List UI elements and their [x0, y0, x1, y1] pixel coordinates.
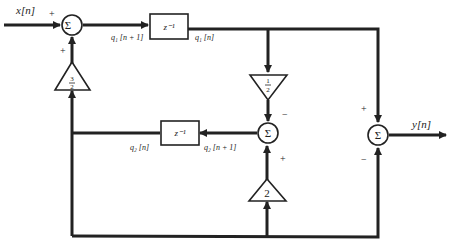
sign-top-input: + — [49, 8, 55, 19]
q1-label: q₁ [n] — [195, 33, 214, 42]
sigma-top: Σ — [65, 19, 71, 31]
input-label: x[n] — [15, 4, 35, 16]
q2-label: q₂ [n] — [130, 143, 149, 152]
sign-out-bottom: − — [361, 154, 367, 165]
sign-mid-two: + — [280, 153, 286, 164]
sign-out-q1: + — [361, 103, 367, 114]
delay-bottom-label: z⁻¹ — [173, 128, 186, 138]
sigma-middle: Σ — [265, 127, 271, 139]
gain-half-den: 2 — [266, 86, 270, 94]
gain-three-halves-den: 2 — [70, 83, 74, 91]
gain-three-halves-num: 3 — [70, 75, 74, 83]
sigma-output: Σ — [375, 129, 381, 141]
sign-mid-half: − — [282, 109, 288, 120]
gain-two-label: 2 — [264, 187, 270, 199]
q1-next-label: q₁ [n + 1] — [111, 33, 143, 42]
block-diagram: x[n] + Σ + q₁ [n + 1] z⁻¹ q₁ [n] 3 2 1 2… — [0, 0, 454, 245]
output-label: y[n] — [411, 118, 431, 130]
gain-half-num: 1 — [266, 77, 270, 85]
sign-top-feedback: + — [60, 45, 66, 56]
delay-top-label: z⁻¹ — [162, 22, 175, 32]
bottom-loop-line — [72, 148, 378, 237]
q2-next-label: q₂ [n + 1] — [204, 143, 236, 152]
